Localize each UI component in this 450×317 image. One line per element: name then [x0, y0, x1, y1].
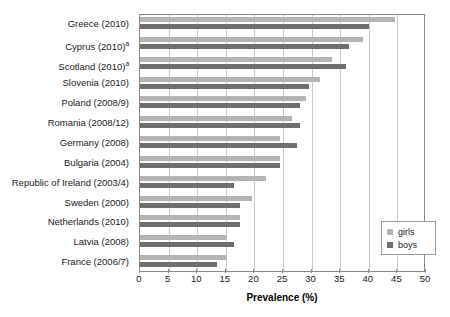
legend-swatch-boys [387, 242, 393, 248]
y-axis-label-text: Greece (2010) [68, 18, 129, 29]
x-axis-tick-label: 45 [391, 273, 402, 284]
bar-boys [140, 143, 297, 148]
bar-row [140, 15, 424, 35]
y-axis-label-text: Romania (2008/12) [48, 117, 129, 128]
y-axis-label-text: Germany (2008) [60, 137, 129, 148]
bar-boys [140, 183, 234, 188]
bar-boys [140, 262, 217, 267]
y-axis-label: Scotland (2010)a [58, 59, 129, 72]
y-axis-label: Bulgaria (2004) [64, 158, 129, 168]
y-axis-label: Sweden (2000) [65, 198, 129, 208]
bar-row [140, 114, 424, 134]
chart-legend: girlsboys [381, 221, 436, 255]
bar-boys [140, 64, 346, 69]
bar-girls [140, 57, 332, 62]
y-axis-label-text: Cyprus (2010) [65, 41, 125, 52]
y-axis-label: Republic of Ireland (2003/4) [12, 178, 129, 188]
y-axis-label: Germany (2008) [60, 138, 129, 148]
bar-boys [140, 203, 240, 208]
bar-girls [140, 235, 226, 240]
legend-label: boys [398, 240, 417, 250]
y-axis-label-text: Bulgaria (2004) [64, 157, 129, 168]
y-axis-label: Romania (2008/12) [48, 118, 129, 128]
bar-girls [140, 156, 280, 161]
bar-girls [140, 37, 363, 42]
bar-row [140, 55, 424, 75]
x-axis-tick-label: 50 [420, 273, 431, 284]
bar-girls [140, 136, 280, 141]
bar-girls [140, 255, 226, 260]
bar-girls [140, 77, 320, 82]
bar-row [140, 154, 424, 174]
y-axis-labels: Greece (2010)Cyprus (2010)aScotland (201… [0, 14, 135, 272]
bar-girls [140, 176, 266, 181]
y-axis-label: Slovenia (2010) [62, 78, 129, 88]
bar-boys [140, 24, 369, 29]
bar-girls [140, 116, 292, 121]
legend-item-girls: girls [387, 225, 435, 238]
x-axis-tick-label: 10 [191, 273, 202, 284]
y-axis-label: Greece (2010) [68, 19, 129, 29]
bar-girls [140, 96, 306, 101]
y-axis-label: Poland (2008/9) [61, 98, 129, 108]
y-axis-label: France (2006/7) [61, 257, 129, 267]
bar-row [140, 35, 424, 55]
x-axis-tick-label: 40 [363, 273, 374, 284]
bar-row [140, 174, 424, 194]
bar-row [140, 134, 424, 154]
prevalence-bar-chart: Greece (2010)Cyprus (2010)aScotland (201… [0, 0, 450, 317]
x-axis-tick-label: 5 [165, 273, 170, 284]
y-axis-label-text: Slovenia (2010) [62, 77, 129, 88]
bar-row [140, 75, 424, 95]
y-axis-label-text: France (2006/7) [61, 256, 129, 267]
bar-boys [140, 123, 300, 128]
bar-girls [140, 17, 395, 22]
x-axis-ticks: 05101520253035404550 [139, 273, 425, 289]
bar-boys [140, 163, 280, 168]
y-axis-label-text: Netherlands (2010) [48, 216, 129, 227]
x-axis-tick-label: 35 [334, 273, 345, 284]
bar-row [140, 94, 424, 114]
y-axis-label-text: Sweden (2000) [65, 197, 129, 208]
footnote-marker: a [125, 40, 129, 47]
x-axis-tick-label: 20 [248, 273, 259, 284]
legend-label: girls [398, 227, 415, 237]
bar-row [140, 194, 424, 214]
bar-boys [140, 222, 240, 227]
bar-boys [140, 44, 349, 49]
y-axis-label-text: Scotland (2010) [58, 61, 125, 72]
x-axis-title: Prevalence (%) [139, 292, 425, 303]
x-axis-tick-label: 0 [136, 273, 141, 284]
bar-boys [140, 103, 300, 108]
y-axis-label-text: Republic of Ireland (2003/4) [12, 177, 129, 188]
x-axis-tick-label: 15 [220, 273, 231, 284]
legend-item-boys: boys [387, 238, 435, 251]
bar-girls [140, 196, 252, 201]
bar-girls [140, 215, 240, 220]
y-axis-label: Latvia (2008) [74, 237, 129, 247]
bar-boys [140, 242, 234, 247]
bar-boys [140, 84, 309, 89]
y-axis-label-text: Latvia (2008) [74, 236, 129, 247]
y-axis-label: Cyprus (2010)a [65, 39, 129, 52]
x-axis-tick-label: 25 [277, 273, 288, 284]
x-axis-tick-label: 30 [305, 273, 316, 284]
y-axis-label: Netherlands (2010) [48, 217, 129, 227]
legend-swatch-girls [387, 229, 393, 235]
footnote-marker: a [125, 60, 129, 67]
y-axis-label-text: Poland (2008/9) [61, 97, 129, 108]
